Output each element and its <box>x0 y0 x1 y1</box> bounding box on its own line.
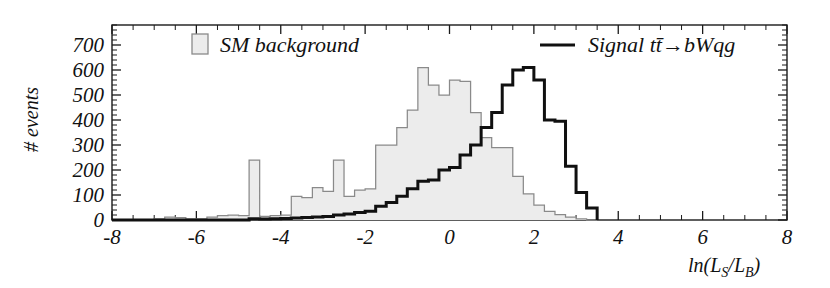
x-title-slash: /L <box>727 254 745 276</box>
svg-text:Signal tt̄→bWqg: Signal tt̄→bWqg <box>588 32 735 57</box>
legend-label-sm-background: SM background <box>220 32 360 57</box>
y-tick-label: 0 <box>94 208 105 232</box>
y-axis-tick-labels: 0100200300400500600700 <box>72 33 105 232</box>
x-tick-label: -8 <box>103 225 121 249</box>
y-tick-label: 600 <box>73 58 105 82</box>
legend-entry-sm-background: SM background <box>192 32 360 57</box>
y-tick-label: 200 <box>73 158 105 182</box>
likelihood-ratio-plot: -8-6-4-202468 0100200300400500600700 # e… <box>0 0 830 288</box>
x-tick-label: 0 <box>444 225 455 249</box>
legend-label-signal-suffix: →bWqg <box>662 32 735 57</box>
x-tick-label: 6 <box>697 225 708 249</box>
sm-background-histogram-fill <box>112 68 597 221</box>
x-axis-title: ln(LS/LB) <box>688 254 761 280</box>
chart-figure: -8-6-4-202468 0100200300400500600700 # e… <box>0 0 830 288</box>
y-tick-label: 500 <box>73 83 105 107</box>
legend-label-signal-prefix: Signal t <box>588 32 657 57</box>
y-axis-title: # events <box>20 87 42 152</box>
x-title-close: ) <box>753 254 761 277</box>
y-tick-label: 400 <box>73 108 105 132</box>
x-tick-label: 8 <box>782 225 793 249</box>
x-title-ln-open: ln(L <box>688 254 721 277</box>
svg-text:ln(LS/LB): ln(LS/LB) <box>688 254 761 280</box>
x-tick-label: -2 <box>356 225 374 249</box>
y-tick-label: 700 <box>73 33 105 57</box>
x-tick-label: 2 <box>529 225 540 249</box>
legend-swatch-sm-background-icon <box>192 34 208 54</box>
x-tick-label: -6 <box>188 225 206 249</box>
x-tick-label: -4 <box>272 225 290 249</box>
x-title-sub-s: S <box>721 265 728 280</box>
x-axis-tick-labels: -8-6-4-202468 <box>103 225 793 249</box>
legend-entry-signal: Signal tt̄→bWqg <box>540 32 735 57</box>
y-tick-label: 300 <box>72 133 105 157</box>
x-tick-label: 4 <box>613 225 624 249</box>
y-tick-label: 100 <box>73 183 105 207</box>
